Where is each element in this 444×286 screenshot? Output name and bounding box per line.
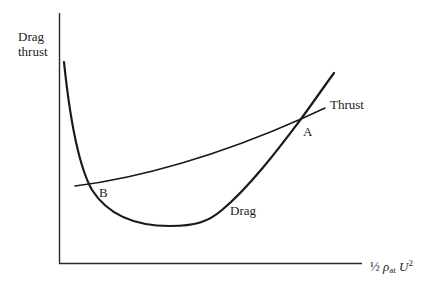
x-axis-fraction: ½	[370, 259, 380, 274]
point-a-label: A	[303, 124, 312, 139]
drag-curve-label: Drag	[230, 203, 256, 218]
thrust-line	[75, 108, 325, 186]
drag-thrust-diagram	[0, 0, 444, 286]
y-axis-label-line-2: thrust	[18, 44, 48, 59]
point-b-label: B	[99, 185, 108, 200]
y-axis-label-line-1: Drag	[18, 29, 48, 44]
drag-curve	[64, 62, 334, 226]
x-axis-label: ½ ρat U2	[370, 256, 413, 278]
y-axis-label: Drag thrust	[18, 29, 48, 59]
x-axis-rho-subscript: at	[389, 265, 396, 275]
thrust-curve-label: Thrust	[330, 97, 364, 112]
x-axis-u: U	[399, 259, 408, 274]
x-axis-u-superscript: 2	[408, 258, 413, 268]
